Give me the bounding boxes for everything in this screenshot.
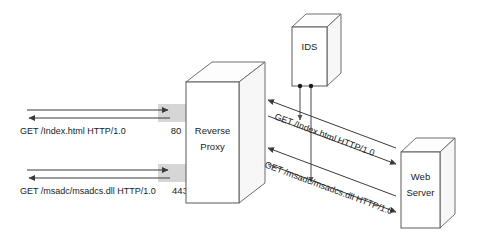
node-web-server[interactable]: Web Server [401,138,455,228]
network-diagram: GET /Index.html HTTP/1.0 GET /msadc/msad… [0,0,479,246]
ids-tap-dot-lower [309,84,313,88]
ids-side-face [327,14,341,86]
ids-tap-dot-upper [298,84,302,88]
request-label-index: GET /Index.html HTTP/1.0 [20,126,126,136]
reverse-proxy-label-line2: Proxy [200,141,225,152]
web-server-label-line2: Server [407,187,435,198]
reverse-proxy-label-line1: Reverse [195,125,230,136]
diagram-canvas: GET /Index.html HTTP/1.0 GET /msadc/msad… [0,0,479,246]
reverse-proxy-side-face [239,62,265,203]
node-reverse-proxy[interactable]: Reverse Proxy [186,62,265,203]
port-label-80: 80 [171,125,182,136]
web-server-label-line1: Web [411,171,430,182]
ids-label: IDS [302,41,318,52]
node-ids[interactable]: IDS [292,14,341,86]
request-label-msadc: GET /msadc/msadcs.dll HTTP/1.0 [20,186,156,196]
web-server-side-face [440,138,455,228]
ids-front-face [292,27,327,86]
